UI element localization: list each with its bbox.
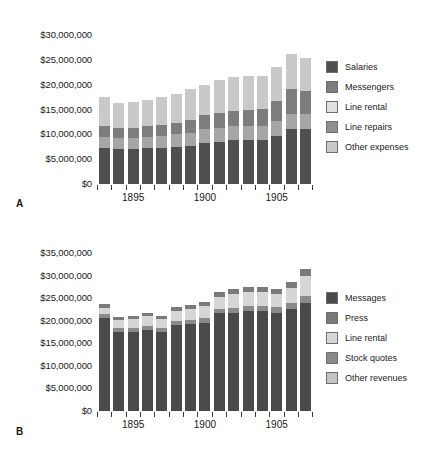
bar-segment-line-rental — [99, 308, 110, 315]
x-axis-tick — [169, 185, 170, 190]
y-axis-tick-label: $30,000,000 — [0, 30, 92, 40]
bar-segment-line-rental — [286, 288, 297, 303]
y-axis-tick-label: $15,000,000 — [0, 338, 92, 348]
bar-1905 — [271, 67, 282, 184]
x-axis-tick — [97, 412, 98, 417]
bar-segment-line-repairs — [257, 126, 268, 140]
legend-item-other-revenues[interactable]: Other revenues — [326, 371, 407, 385]
bar-segment-messengers — [113, 128, 124, 137]
x-axis-tick — [226, 412, 227, 417]
bar-segment-other-expenses — [171, 94, 182, 123]
legend-item-line-rental[interactable]: Line rental — [326, 331, 387, 345]
x-axis-tick — [154, 412, 155, 417]
bar-segment-stock-quotes — [300, 296, 311, 303]
legend-label: Salaries — [345, 62, 378, 73]
bar-segment-line-repairs — [300, 114, 311, 129]
bar-segment-salaries — [142, 148, 153, 184]
bar-1893 — [99, 304, 110, 411]
legend-item-salaries[interactable]: Salaries — [326, 60, 378, 74]
bar-1897 — [156, 316, 167, 411]
legend-item-line-repairs[interactable]: Line repairs — [326, 120, 392, 134]
bar-segment-messages — [171, 325, 182, 411]
bar-segment-messengers — [171, 123, 182, 134]
bar-segment-messages — [185, 324, 196, 411]
bar-segment-messengers — [214, 113, 225, 128]
bar-segment-line-rental — [142, 316, 153, 325]
bar-1900 — [199, 85, 210, 184]
bar-segment-other-expenses — [214, 80, 225, 113]
bar-segment-messages — [99, 318, 110, 411]
bar-segment-line-rental — [156, 319, 167, 328]
x-axis-tick — [126, 412, 127, 417]
legend-swatch-icon — [326, 332, 338, 344]
x-axis-tick-label-1895: 1895 — [111, 419, 155, 430]
bar-segment-line-repairs — [185, 133, 196, 146]
y-axis-tick-label: $10,000,000 — [0, 129, 92, 139]
legend-swatch-icon — [326, 312, 338, 324]
y-axis-tick-label: $20,000,000 — [0, 80, 92, 90]
bar-segment-salaries — [228, 140, 239, 184]
bar-segment-salaries — [300, 129, 311, 184]
bar-segment-line-repairs — [128, 138, 139, 149]
bar-1897 — [156, 97, 167, 184]
bar-1901 — [214, 292, 225, 411]
y-axis-tick-label: $5,000,000 — [0, 154, 92, 164]
bar-segment-messengers — [128, 128, 139, 138]
bar-segment-salaries — [99, 148, 110, 184]
bar-segment-line-rental — [243, 292, 254, 306]
x-axis-tick — [284, 412, 285, 417]
bar-segment-other-expenses — [113, 103, 124, 128]
legend-swatch-icon — [326, 372, 338, 384]
bar-1906 — [286, 54, 297, 184]
legend-label: Press — [345, 313, 368, 324]
legend-item-messages[interactable]: Messages — [326, 291, 386, 305]
bar-segment-line-repairs — [271, 121, 282, 135]
bar-segment-line-rental — [228, 294, 239, 308]
x-axis-tick — [269, 412, 270, 417]
legend-swatch-icon — [326, 141, 338, 153]
bar-segment-messages — [142, 330, 153, 411]
x-axis-tick — [284, 185, 285, 190]
y-axis-tick-label: $25,000,000 — [0, 293, 92, 303]
bar-1904 — [257, 287, 268, 411]
bar-1907 — [300, 58, 311, 184]
bar-segment-other-expenses — [128, 102, 139, 128]
legend-item-messengers[interactable]: Messengers — [326, 80, 394, 94]
x-axis-tick — [241, 185, 242, 190]
legend-item-press[interactable]: Press — [326, 311, 368, 325]
bar-segment-messages — [300, 303, 311, 411]
legend-label: Messages — [345, 293, 386, 304]
x-axis-tick — [312, 185, 313, 190]
legend-item-other-expenses[interactable]: Other expenses — [326, 140, 409, 154]
bar-segment-line-rental — [271, 294, 282, 308]
bar-1894 — [113, 317, 124, 411]
x-axis-tick — [255, 412, 256, 417]
bar-segment-salaries — [128, 149, 139, 184]
x-axis-tick — [241, 412, 242, 417]
x-axis-tick — [183, 185, 184, 190]
bar-1902 — [228, 289, 239, 411]
bar-segment-line-repairs — [113, 138, 124, 149]
bar-1893 — [99, 97, 110, 184]
legend-swatch-icon — [326, 352, 338, 364]
legend-item-line-rental[interactable]: Line rental — [326, 100, 387, 114]
bar-1903 — [243, 76, 254, 184]
bar-segment-salaries — [156, 148, 167, 184]
bar-segment-messengers — [185, 120, 196, 133]
legend-item-stock-quotes[interactable]: Stock quotes — [326, 351, 397, 365]
bar-segment-other-expenses — [142, 100, 153, 127]
x-axis-tick — [255, 185, 256, 190]
bar-segment-line-repairs — [228, 126, 239, 140]
bar-1898 — [171, 94, 182, 184]
x-axis-tick — [269, 185, 270, 190]
x-axis-tick — [97, 185, 98, 190]
bar-segment-messages — [113, 332, 124, 411]
plot-area-a — [99, 35, 313, 184]
x-axis-tick — [212, 412, 213, 417]
bar-1906 — [286, 282, 297, 411]
x-axis-tick — [140, 412, 141, 417]
bar-1903 — [243, 287, 254, 411]
legend-label: Other revenues — [345, 373, 407, 384]
y-axis-tick-label: $35,000,000 — [0, 248, 92, 258]
bar-segment-other-expenses — [185, 89, 196, 120]
